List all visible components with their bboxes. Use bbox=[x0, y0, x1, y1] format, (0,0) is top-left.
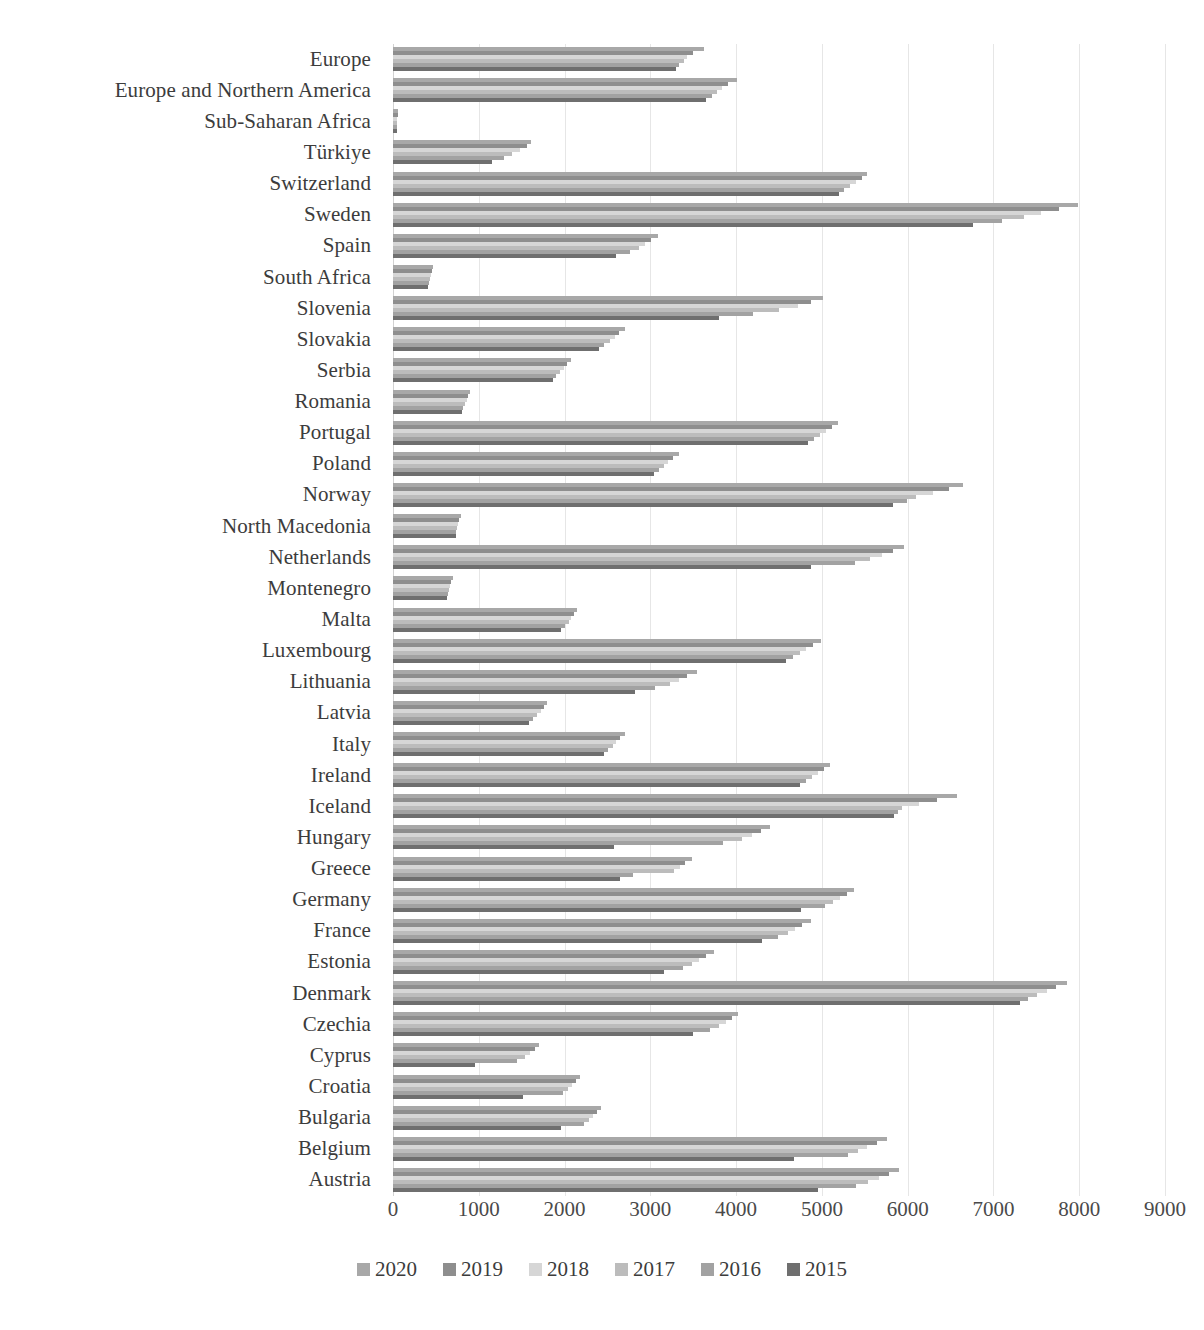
category-label: Czechia bbox=[303, 1014, 371, 1035]
bar-2015 bbox=[393, 659, 786, 663]
legend-swatch-icon bbox=[787, 1263, 800, 1276]
x-tick-label: 0 bbox=[388, 1197, 399, 1221]
category-label: Belgium bbox=[298, 1138, 371, 1159]
x-tick-label: 7000 bbox=[972, 1197, 1014, 1221]
legend-item-2019[interactable]: 2019 bbox=[443, 1259, 503, 1280]
category-label: Europe and Northern America bbox=[115, 80, 371, 101]
bar-2015 bbox=[393, 378, 553, 382]
category-label: Greece bbox=[311, 858, 371, 879]
category-label: Estonia bbox=[307, 951, 371, 972]
category-label: Latvia bbox=[317, 702, 371, 723]
bar-2015 bbox=[393, 316, 719, 320]
bar-2015 bbox=[393, 908, 801, 912]
value-axis: 0100020003000400050006000700080009000 bbox=[393, 1197, 1165, 1227]
bar-2015 bbox=[393, 628, 561, 632]
category-label: Cyprus bbox=[310, 1045, 371, 1066]
bar-2015 bbox=[393, 939, 762, 943]
x-tick-label: 4000 bbox=[715, 1197, 757, 1221]
legend-item-2015[interactable]: 2015 bbox=[787, 1259, 847, 1280]
category-label: South Africa bbox=[263, 267, 371, 288]
bar-2015 bbox=[393, 254, 616, 258]
legend-swatch-icon bbox=[701, 1263, 714, 1276]
category-label: Luxembourg bbox=[262, 640, 371, 661]
bar-2015 bbox=[393, 845, 614, 849]
x-tick-label: 3000 bbox=[629, 1197, 671, 1221]
legend-label: 2016 bbox=[719, 1259, 761, 1280]
category-label: Romania bbox=[294, 391, 371, 412]
bar-2015 bbox=[393, 970, 664, 974]
category-label: Austria bbox=[308, 1169, 371, 1190]
bar-2015 bbox=[393, 129, 397, 133]
legend-swatch-icon bbox=[357, 1263, 370, 1276]
plot-area bbox=[393, 44, 1165, 1196]
bar-2015 bbox=[393, 503, 893, 507]
bar-2015 bbox=[393, 1032, 693, 1036]
x-tick-label: 9000 bbox=[1144, 1197, 1186, 1221]
bar-2015 bbox=[393, 410, 462, 414]
category-axis-labels: EuropeEurope and Northern AmericaSub-Sah… bbox=[0, 44, 383, 1196]
bar-2015 bbox=[393, 347, 599, 351]
legend-item-2020[interactable]: 2020 bbox=[357, 1259, 417, 1280]
x-tick-label: 5000 bbox=[801, 1197, 843, 1221]
legend-label: 2019 bbox=[461, 1259, 503, 1280]
bar-2015 bbox=[393, 814, 894, 818]
category-label: Spain bbox=[323, 235, 371, 256]
bar-2015 bbox=[393, 1126, 561, 1130]
category-label: Portugal bbox=[299, 422, 371, 443]
legend-item-2018[interactable]: 2018 bbox=[529, 1259, 589, 1280]
category-label: Switzerland bbox=[270, 173, 371, 194]
category-label: Hungary bbox=[297, 827, 371, 848]
bar-chart: EuropeEurope and Northern AmericaSub-Sah… bbox=[0, 0, 1204, 1330]
legend-swatch-icon bbox=[529, 1263, 542, 1276]
bar-2015 bbox=[393, 877, 620, 881]
legend-swatch-icon bbox=[615, 1263, 628, 1276]
legend-label: 2018 bbox=[547, 1259, 589, 1280]
x-tick-label: 8000 bbox=[1058, 1197, 1100, 1221]
bar-2015 bbox=[393, 752, 604, 756]
legend: 202020192018201720162015 bbox=[0, 1252, 1204, 1286]
bar-2015 bbox=[393, 565, 811, 569]
legend-item-2017[interactable]: 2017 bbox=[615, 1259, 675, 1280]
bar-2015 bbox=[393, 721, 529, 725]
bar-2015 bbox=[393, 67, 676, 71]
category-label: Serbia bbox=[317, 360, 371, 381]
bar-2015 bbox=[393, 192, 839, 196]
x-tick-label: 2000 bbox=[544, 1197, 586, 1221]
category-label: Malta bbox=[322, 609, 371, 630]
category-label: Lithuania bbox=[290, 671, 371, 692]
category-label: Sweden bbox=[304, 204, 371, 225]
bar-2015 bbox=[393, 783, 800, 787]
category-label: Italy bbox=[332, 734, 371, 755]
bar-2015 bbox=[393, 1188, 818, 1192]
x-tick-label: 1000 bbox=[458, 1197, 500, 1221]
gridline-8000 bbox=[1079, 44, 1080, 1196]
category-label: Ireland bbox=[311, 765, 371, 786]
category-label: Sub-Saharan Africa bbox=[204, 111, 371, 132]
legend-swatch-icon bbox=[443, 1263, 456, 1276]
bar-2015 bbox=[393, 596, 447, 600]
bar-2015 bbox=[393, 1001, 1020, 1005]
category-label: France bbox=[313, 920, 371, 941]
category-label: Slovakia bbox=[297, 329, 371, 350]
category-label: Croatia bbox=[308, 1076, 371, 1097]
bar-2015 bbox=[393, 690, 635, 694]
bar-2015 bbox=[393, 1063, 475, 1067]
bar-2015 bbox=[393, 534, 456, 538]
category-label: Iceland bbox=[309, 796, 372, 817]
bar-2015 bbox=[393, 223, 973, 227]
category-label: Poland bbox=[312, 453, 371, 474]
legend-label: 2020 bbox=[375, 1259, 417, 1280]
category-label: Bulgaria bbox=[298, 1107, 371, 1128]
category-label: Norway bbox=[303, 484, 371, 505]
category-label: Türkiye bbox=[304, 142, 371, 163]
legend-item-2016[interactable]: 2016 bbox=[701, 1259, 761, 1280]
category-label: Europe bbox=[310, 49, 371, 70]
gridline-9000 bbox=[1165, 44, 1166, 1196]
category-label: Montenegro bbox=[267, 578, 371, 599]
bar-2015 bbox=[393, 285, 428, 289]
bar-2015 bbox=[393, 1157, 794, 1161]
x-tick-label: 6000 bbox=[887, 1197, 929, 1221]
category-label: Slovenia bbox=[297, 298, 371, 319]
category-label: Netherlands bbox=[268, 547, 371, 568]
bar-2015 bbox=[393, 98, 706, 102]
